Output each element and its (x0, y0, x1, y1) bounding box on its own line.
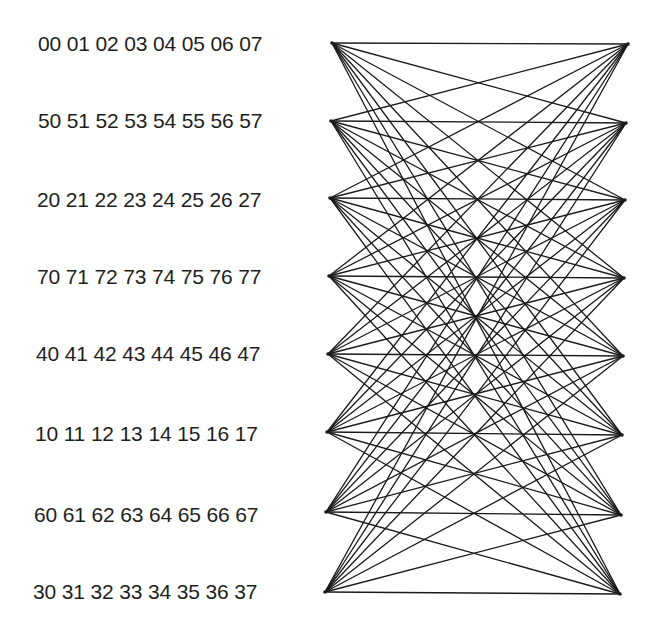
edge-7-2 (325, 200, 625, 592)
right-node-0 (626, 42, 630, 46)
right-node-5 (624, 121, 628, 125)
edge-5-4 (327, 356, 623, 432)
left-node-1 (325, 430, 329, 434)
edge-4-0 (328, 44, 628, 354)
edge-5-3 (327, 278, 624, 432)
left-node-6 (324, 510, 328, 514)
edge-6-1 (326, 123, 626, 512)
edges (325, 43, 628, 594)
left-node-3 (323, 590, 327, 594)
edge-7-6 (325, 515, 621, 592)
edge-7-7 (325, 592, 620, 594)
right-node-3 (618, 592, 622, 596)
edge-1-0 (331, 44, 628, 121)
edge-7-4 (325, 356, 623, 592)
bipartite-graph (0, 0, 665, 640)
right-node-1 (620, 433, 624, 437)
right-node-4 (621, 354, 625, 358)
left-node-4 (326, 352, 330, 356)
edge-5-0 (327, 44, 628, 432)
edge-0-0 (332, 43, 628, 44)
edge-7-1 (325, 123, 626, 592)
left-node-7 (327, 274, 331, 278)
left-node-5 (329, 119, 333, 123)
right-node-7 (622, 276, 626, 280)
right-node-2 (623, 198, 627, 202)
left-node-0 (330, 41, 334, 45)
left-node-2 (328, 196, 332, 200)
right-node-6 (619, 513, 623, 517)
edge-7-0 (325, 44, 628, 592)
